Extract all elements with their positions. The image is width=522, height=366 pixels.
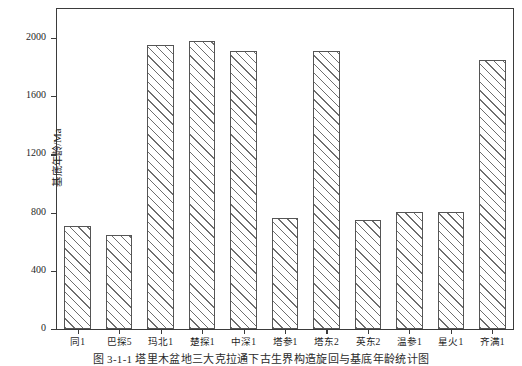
bar-slot <box>438 9 465 329</box>
x-tick-label: 英东2 <box>356 334 381 348</box>
y-tick-label: 2000 <box>26 31 46 42</box>
y-tick-label: 1600 <box>26 89 46 100</box>
y-tick: 1600 <box>0 96 56 97</box>
bar-slot <box>147 9 174 329</box>
y-tick-mark <box>51 38 56 39</box>
bar-slot <box>396 9 423 329</box>
bar[interactable] <box>106 235 133 329</box>
y-tick-label: 0 <box>41 322 46 333</box>
x-tick-label: 中深1 <box>231 334 256 348</box>
bar-slot <box>64 9 91 329</box>
bar[interactable] <box>313 51 340 329</box>
bar[interactable] <box>189 41 216 329</box>
bar-slot <box>230 9 257 329</box>
bar-slot <box>355 9 382 329</box>
bar-slot <box>189 9 216 329</box>
bar[interactable] <box>438 212 465 329</box>
y-tick-mark <box>51 213 56 214</box>
bar-slot <box>479 9 506 329</box>
y-tick: 2000 <box>0 38 56 39</box>
y-tick: 1200 <box>0 154 56 155</box>
bar[interactable] <box>147 45 174 329</box>
x-tick-label: 塔东2 <box>314 334 339 348</box>
y-tick-label: 1200 <box>26 147 46 158</box>
y-tick-mark <box>51 96 56 97</box>
x-tick-label: 楚探1 <box>190 334 215 348</box>
bar[interactable] <box>479 60 506 329</box>
bar[interactable] <box>230 51 257 329</box>
y-tick-label: 800 <box>31 206 46 217</box>
x-tick-label: 同1 <box>70 334 85 348</box>
bar-slot <box>106 9 133 329</box>
x-tick-label: 巴探5 <box>107 334 132 348</box>
x-tick-label: 温参1 <box>397 334 422 348</box>
bar[interactable] <box>64 226 91 329</box>
figure-caption: 图 3-1-1 塔里木盆地三大克拉通下古生界构造旋回与基底年龄统计图 <box>0 350 522 366</box>
x-tick-label: 塔参1 <box>273 334 298 348</box>
bar[interactable] <box>272 218 299 329</box>
x-tick-label: 星火1 <box>438 334 463 348</box>
bar-slot <box>313 9 340 329</box>
y-tick: 0 <box>0 329 56 330</box>
bar[interactable] <box>396 212 423 329</box>
bar-series <box>57 9 513 329</box>
y-tick: 800 <box>0 213 56 214</box>
y-tick: 400 <box>0 271 56 272</box>
x-tick-label: 齐满1 <box>480 334 505 348</box>
y-tick-mark <box>51 329 56 330</box>
y-tick-mark <box>51 154 56 155</box>
x-tick-label: 玛北1 <box>148 334 173 348</box>
y-tick-label: 400 <box>31 264 46 275</box>
bar-slot <box>272 9 299 329</box>
y-tick-mark <box>51 271 56 272</box>
bar[interactable] <box>355 220 382 329</box>
